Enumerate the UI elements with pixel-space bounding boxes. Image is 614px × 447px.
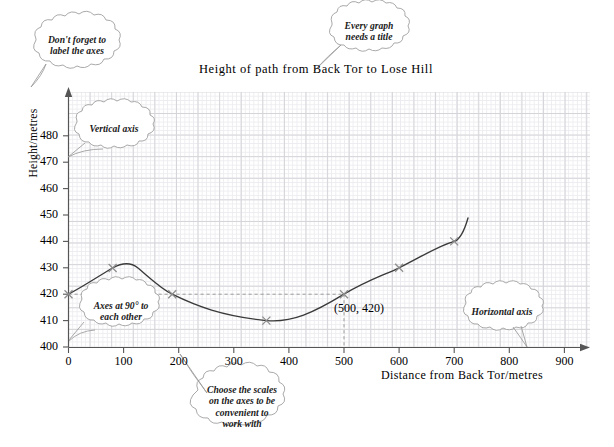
x-tick-label: 900 <box>547 354 581 369</box>
x-axis-title: Distance from Back Tor/metres <box>381 368 543 383</box>
x-tick-label: 200 <box>162 354 196 369</box>
callout-horizontal-axis-shape <box>463 281 543 347</box>
y-tick-label: 440 <box>28 233 58 248</box>
x-tick-label: 300 <box>217 354 251 369</box>
x-tick-label: 700 <box>437 354 471 369</box>
x-tick-label: 500 <box>327 354 361 369</box>
callout-needs-title-shape <box>314 0 409 71</box>
x-tick-label: 0 <box>52 354 86 369</box>
y-tick-label: 410 <box>28 313 58 328</box>
y-tick-label: 470 <box>28 154 58 169</box>
callout-axes-90-shape <box>69 277 159 341</box>
y-tick-label: 430 <box>28 260 58 275</box>
x-tick-label: 100 <box>107 354 141 369</box>
coordinate-annotation: (500, 420) <box>334 301 384 316</box>
y-tick-label: 480 <box>28 128 58 143</box>
x-tick-label: 800 <box>492 354 526 369</box>
x-tick-label: 400 <box>272 354 306 369</box>
y-tick-label: 400 <box>28 339 58 354</box>
x-tick-label: 600 <box>382 354 416 369</box>
graph-figure: Height of path from Back Tor to Lose Hil… <box>0 0 614 447</box>
chart-title: Height of path from Back Tor to Lose Hil… <box>199 62 433 77</box>
y-tick-label: 450 <box>28 207 58 222</box>
callout-label-axes-shape <box>31 11 120 87</box>
y-tick-label: 460 <box>28 181 58 196</box>
callout-vertical-axis-shape <box>68 99 154 157</box>
y-tick-label: 420 <box>28 286 58 301</box>
